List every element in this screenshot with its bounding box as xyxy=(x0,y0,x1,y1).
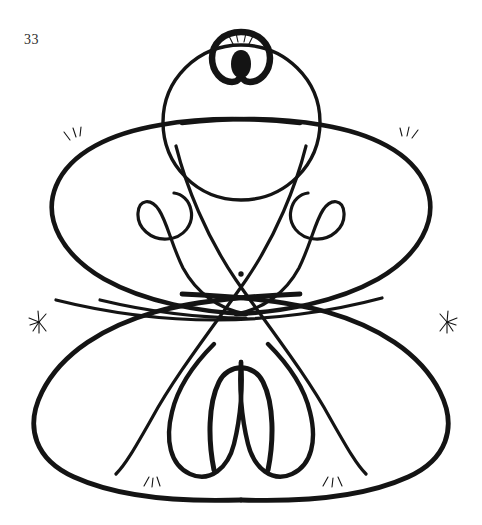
spark-bottom-right xyxy=(323,477,342,487)
spark-upper-right xyxy=(400,127,418,138)
apex-bulb-group xyxy=(212,32,270,82)
center-dot xyxy=(238,271,243,276)
loop-inner-left xyxy=(169,344,242,477)
spark-upper-left xyxy=(64,127,81,140)
loop-inner-right xyxy=(240,344,313,477)
spark-bottom-left xyxy=(144,477,160,487)
knot-figure xyxy=(0,0,482,525)
spark-mid-left xyxy=(29,311,46,333)
spark-mid-right xyxy=(440,311,457,333)
apex-bulb-inner-drop xyxy=(231,50,251,78)
page-canvas: 33 xyxy=(0,0,482,525)
